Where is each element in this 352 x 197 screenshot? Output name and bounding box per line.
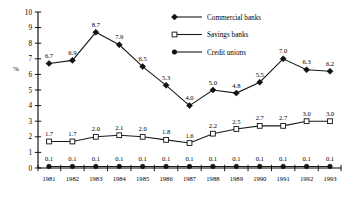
data-point-marker [187,141,192,146]
x-axis-tick-label: 1983 [89,175,103,182]
data-point-label: 2.5 [232,118,241,125]
data-point-marker [211,164,216,169]
x-axis-tick-label: 1986 [159,175,173,182]
data-point-marker [117,164,122,169]
data-point-marker [172,50,177,55]
data-point-label: 7.9 [115,33,124,40]
data-point-marker [211,131,216,136]
data-point-marker [281,164,286,169]
legend-item-label: Credit unions [207,49,246,57]
data-point-label: 2.2 [209,122,217,129]
data-point-label: 2.1 [115,124,123,131]
data-point-label: 2.0 [139,125,148,132]
y-axis: 012345678910 [25,9,41,173]
x-axis-tick-label: 1993 [323,175,337,182]
data-point-label: 3.0 [326,110,335,117]
data-point-marker [140,164,145,169]
data-point-marker [117,133,122,138]
data-point-marker [328,164,333,169]
chart-canvas: 012345678910 198119821983198419851986198… [0,0,352,197]
legend-item-credit-unions: Credit unions [172,49,246,57]
data-point-marker [234,127,239,132]
data-point-marker [210,87,216,93]
data-point-marker [187,164,192,169]
data-point-label: 0.1 [232,155,240,162]
data-point-marker [257,123,262,128]
y-axis-tick-label: 4 [28,102,32,110]
y-axis-title: % [13,65,19,73]
data-point-marker [93,134,98,139]
data-point-label: 1.8 [162,128,171,135]
y-axis-tick-label: 9 [28,24,32,32]
x-axis-tick-label: 1988 [206,175,220,182]
data-point-marker [164,138,169,143]
data-point-label: 5.3 [162,74,171,81]
data-point-label: 6.5 [139,55,148,62]
y-axis-tick-label: 3 [28,118,32,126]
data-point-marker [140,134,145,139]
data-point-label: 5.5 [256,71,265,78]
data-point-marker [327,68,333,74]
x-axis-tick-label: 1987 [183,175,197,182]
y-axis-tick-label: 7 [28,55,32,63]
data-point-marker [47,139,52,144]
data-point-label: 0.1 [279,155,287,162]
x-axis-tick-label: 1990 [253,175,267,182]
data-point-marker [257,164,262,169]
data-point-marker [46,60,52,66]
data-point-label: 7.0 [279,47,288,54]
legend-item-savings-banks: Savings banks [172,31,249,39]
x-axis-tick-label: 1984 [113,175,127,182]
data-point-label: 4.8 [232,82,241,89]
data-point-marker [234,164,239,169]
data-point-label: 2.7 [279,114,288,121]
x-axis-tick-label: 1991 [277,175,290,182]
data-point-label: 0.1 [68,155,76,162]
data-point-marker [94,164,99,169]
data-point-label: 3.0 [302,110,311,117]
data-point-label: 0.1 [185,155,193,162]
data-point-label: 0.1 [256,155,264,162]
data-point-label: 6.3 [302,58,311,65]
x-axis-tick-label: 1989 [230,175,244,182]
data-point-label: 6.2 [326,60,334,67]
data-point-label: 0.1 [162,155,170,162]
data-point-label: 0.1 [115,155,123,162]
y-axis-tick-label: 10 [25,9,33,17]
data-point-marker [304,119,309,124]
data-point-label: 8.7 [92,21,101,28]
line-chart: 012345678910 198119821983198419851986198… [0,0,352,197]
y-axis-tick-label: 1 [28,149,32,157]
data-point-label: 6.7 [45,52,54,59]
data-point-marker [70,164,75,169]
data-point-label: 0.1 [326,155,334,162]
data-point-label: 0.1 [209,155,217,162]
x-axis-tick-label: 1992 [300,175,313,182]
legend-item-label: Commercial banks [207,14,261,22]
data-point-marker [304,67,310,73]
data-point-label: 5.0 [209,79,218,86]
y-axis-tick-label: 0 [28,165,32,173]
x-axis-tick-label: 1981 [42,175,55,182]
data-point-label: 0.1 [45,155,53,162]
data-point-marker [47,164,52,169]
data-point-marker [233,90,239,96]
data-point-label: 1.7 [68,130,77,137]
data-point-marker [172,14,178,20]
data-point-label: 2.7 [256,114,265,121]
data-point-label: 2.0 [92,125,101,132]
y-axis-tick-label: 8 [28,40,32,48]
data-point-marker [328,119,333,124]
data-point-marker [70,139,75,144]
y-axis-tick-label: 6 [28,71,32,79]
data-point-marker [281,123,286,128]
data-point-marker [304,164,309,169]
legend-item-commercial-banks: Commercial banks [172,14,262,22]
y-axis-tick-label: 5 [28,87,32,95]
x-axis-tick-label: 1982 [66,175,79,182]
data-point-label: 1.7 [45,130,54,137]
data-point-marker [172,32,177,37]
data-point-label: 0.1 [92,155,100,162]
data-point-marker [164,164,169,169]
data-point-label: 0.1 [139,155,147,162]
